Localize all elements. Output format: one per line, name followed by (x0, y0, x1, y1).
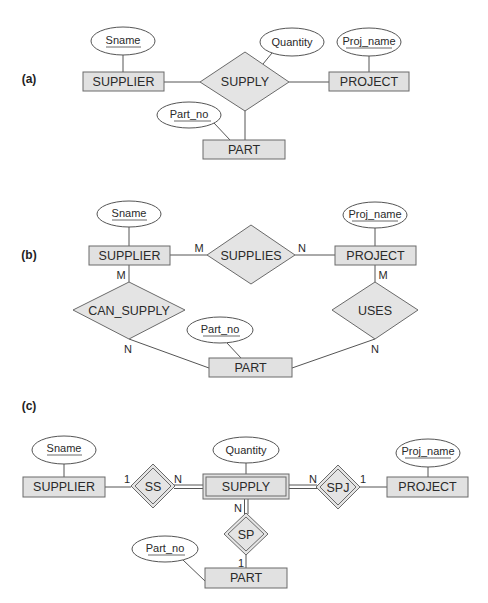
attr-sname: Sname (32, 436, 96, 464)
svg-text:Sname: Sname (106, 34, 141, 46)
svg-text:SUPPLIER: SUPPLIER (93, 75, 155, 89)
svg-text:SP: SP (238, 528, 255, 542)
svg-text:SUPPLY: SUPPLY (221, 75, 270, 89)
entity-part: PART (203, 140, 285, 159)
entity-supplier: SUPPLIER (89, 246, 170, 265)
cardinality-label: 1 (360, 473, 366, 485)
diagram-c: (c) Sname Quantity (22, 399, 468, 588)
svg-text:PROJECT: PROJECT (398, 480, 457, 494)
line-quantity-supply (263, 53, 272, 64)
svg-text:SUPPLY: SUPPLY (222, 480, 271, 494)
weak-entity-supply: SUPPLY (203, 474, 289, 499)
attr-part-no: Part_no (132, 536, 198, 562)
double-line-supply-sp (245, 499, 249, 514)
identifying-relationship-sp: SP (224, 513, 268, 555)
svg-text:SUPPLIER: SUPPLIER (33, 480, 95, 494)
svg-text:Proj_name: Proj_name (348, 208, 401, 220)
line-partno-part (227, 343, 241, 358)
line-partno-part (214, 123, 230, 140)
diagram-b-label: (b) (21, 248, 36, 262)
svg-text:CAN_SUPPLY: CAN_SUPPLY (88, 304, 170, 318)
entity-part: PART (209, 358, 292, 377)
svg-text:PART: PART (234, 361, 267, 375)
attr-proj-name: Proj_name (396, 439, 460, 467)
svg-text:PROJECT: PROJECT (340, 75, 399, 89)
attr-proj-name: Proj_name (343, 202, 407, 228)
diagram-a: (a) Sname Quantity Proj_name Part_no (22, 27, 409, 159)
line-can-supply-part (129, 339, 209, 368)
svg-text:Quantity: Quantity (226, 444, 267, 456)
svg-text:Quantity: Quantity (272, 36, 313, 48)
svg-text:SS: SS (145, 480, 162, 494)
cardinality-label: N (309, 473, 317, 485)
svg-text:SUPPLIER: SUPPLIER (99, 249, 161, 263)
diagram-a-label: (a) (22, 72, 37, 86)
svg-text:Part_no: Part_no (146, 542, 185, 554)
cardinality-label: N (371, 343, 379, 355)
cardinality-label: 1 (238, 557, 244, 569)
diagram-c-label: (c) (22, 399, 37, 413)
double-line-supply-spj (289, 485, 317, 489)
line-partno-part (183, 560, 205, 581)
entity-project: PROJECT (329, 72, 409, 91)
cardinality-label: N (124, 343, 132, 355)
attr-sname: Sname (91, 27, 155, 55)
entity-supplier: SUPPLIER (83, 72, 164, 91)
svg-text:PART: PART (228, 143, 261, 157)
cardinality-label: M (116, 269, 125, 281)
relationship-can-supply: CAN_SUPPLY (73, 282, 185, 339)
entity-supplier: SUPPLIER (23, 477, 105, 497)
relationship-supplies: SUPPLIES (207, 225, 295, 284)
identifying-relationship-ss: SS (131, 464, 175, 508)
identifying-relationship-spj: SPJ (316, 465, 360, 509)
attr-proj-name: Proj_name (337, 28, 401, 56)
attr-quantity: Quantity (260, 28, 324, 56)
entity-project: PROJECT (387, 477, 468, 497)
attr-part-no: Part_no (157, 102, 221, 128)
er-diagram-figure: (a) Sname Quantity Proj_name Part_no (0, 0, 488, 603)
attr-sname: Sname (97, 201, 161, 227)
cardinality-label: N (298, 242, 306, 254)
attr-quantity: Quantity (213, 437, 279, 463)
entity-project: PROJECT (335, 246, 416, 265)
cardinality-label: M (194, 242, 203, 254)
svg-text:PART: PART (230, 571, 263, 585)
relationship-uses: USES (332, 282, 418, 339)
svg-text:Proj_name: Proj_name (401, 445, 454, 457)
svg-text:SPJ: SPJ (327, 481, 350, 495)
svg-text:USES: USES (358, 304, 392, 318)
svg-text:Proj_name: Proj_name (342, 35, 395, 47)
double-line-ss-supply (174, 485, 203, 489)
attr-part-no: Part_no (187, 317, 253, 343)
diagram-b: (b) Sname Proj_name Part_no S (21, 201, 418, 377)
cardinality-label: 1 (124, 473, 130, 485)
svg-text:Sname: Sname (47, 442, 82, 454)
svg-text:SUPPLIES: SUPPLIES (220, 249, 281, 263)
svg-text:Sname: Sname (112, 207, 147, 219)
relationship-supply: SUPPLY (200, 52, 289, 111)
cardinality-label: M (378, 269, 387, 281)
line-uses-part (292, 339, 375, 368)
svg-text:PROJECT: PROJECT (346, 249, 405, 263)
svg-text:Part_no: Part_no (170, 108, 209, 120)
svg-text:Part_no: Part_no (201, 323, 240, 335)
entity-part: PART (205, 568, 287, 588)
cardinality-label: N (174, 473, 182, 485)
cardinality-label: N (234, 502, 242, 514)
